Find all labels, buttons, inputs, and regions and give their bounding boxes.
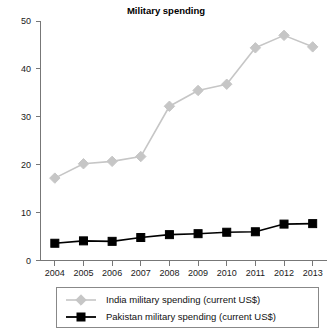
legend-label: India military spending (current US$) <box>106 294 260 305</box>
legend-label: Pakistan military spending (current US$) <box>106 311 276 322</box>
series-line <box>55 35 313 178</box>
data-point-marker <box>108 237 116 245</box>
data-point-marker <box>78 159 88 169</box>
y-tick-label: 40 <box>21 64 31 74</box>
y-tick-label: 0 <box>26 256 31 266</box>
y-tick-label: 20 <box>21 160 31 170</box>
data-point-marker <box>194 230 202 238</box>
data-point-marker <box>251 228 259 236</box>
y-tick-label: 10 <box>21 208 31 218</box>
y-tick-label: 50 <box>21 16 31 26</box>
data-point-marker <box>107 156 117 166</box>
data-point-marker <box>165 231 173 239</box>
data-point-marker <box>223 228 231 236</box>
x-tick-label: 2004 <box>45 268 65 278</box>
data-point-marker <box>136 151 146 161</box>
y-axis: 01020304050 <box>21 16 41 266</box>
chart-figure: Military spending 01020304050 2004200520… <box>0 0 333 331</box>
data-point-marker <box>50 173 60 183</box>
chart-title: Military spending <box>127 5 205 16</box>
x-tick-label: 2006 <box>102 268 122 278</box>
x-tick-label: 2010 <box>217 268 237 278</box>
data-point-marker <box>279 30 289 40</box>
series-india <box>50 30 318 183</box>
x-axis: 2004200520062007200820092010201120122013 <box>45 261 323 279</box>
data-series-group <box>50 30 318 247</box>
data-point-marker <box>280 220 288 228</box>
x-tick-label: 2009 <box>188 268 208 278</box>
x-tick-label: 2013 <box>303 268 323 278</box>
x-tick-label: 2011 <box>246 268 265 278</box>
data-point-marker <box>164 101 174 111</box>
x-tick-label: 2008 <box>159 268 179 278</box>
data-point-marker <box>307 42 317 52</box>
x-tick-label: 2012 <box>274 268 294 278</box>
data-point-marker <box>309 220 317 228</box>
series-line <box>55 224 313 244</box>
data-point-marker <box>79 237 87 245</box>
military-spending-line-chart: Military spending 01020304050 2004200520… <box>0 0 333 331</box>
data-point-marker <box>51 239 59 247</box>
series-pakistan <box>51 220 317 248</box>
data-point-marker <box>137 234 145 242</box>
x-tick-label: 2007 <box>131 268 151 278</box>
data-point-marker <box>193 85 203 95</box>
data-point-marker <box>77 313 85 321</box>
x-tick-label: 2005 <box>73 268 93 278</box>
y-tick-label: 30 <box>21 112 31 122</box>
